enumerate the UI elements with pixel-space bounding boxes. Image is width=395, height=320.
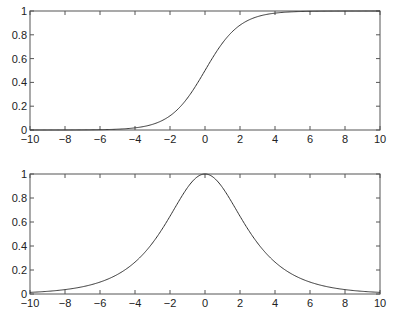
y-tick-label: 0.4 [12,76,27,88]
x-tick-label: 2 [237,297,243,309]
x-tick-label: 0 [202,133,208,145]
x-tick-label: 6 [307,133,313,145]
x-tick-label: −6 [94,133,107,145]
y-tick-label: 0.6 [12,53,27,65]
y-tick-label: 0.4 [12,240,27,252]
x-tick-label: 8 [342,133,348,145]
x-tick-label: 4 [272,133,278,145]
x-tick-label: −4 [129,297,142,309]
bottom-axes-bell-curve: −10−8−6−4−2024681000.20.40.60.81 [12,168,386,309]
y-tick-label: 0.2 [12,100,27,112]
axes-box [30,174,380,294]
y-tick-label: 0.8 [12,192,27,204]
x-tick-label: 0 [202,297,208,309]
top-axes-sigmoid: −10−8−6−4−2024681000.20.40.60.81 [12,5,386,145]
x-tick-label: 10 [374,133,386,145]
y-tick-label: 0 [21,288,27,300]
x-tick-label: −4 [129,133,142,145]
x-tick-label: 8 [342,297,348,309]
y-tick-label: 0.8 [12,29,27,41]
x-tick-label: −8 [59,297,72,309]
y-tick-label: 1 [21,5,27,17]
x-tick-label: −8 [59,133,72,145]
x-tick-label: −2 [164,297,177,309]
x-tick-label: 2 [237,133,243,145]
y-tick-label: 0 [21,124,27,136]
y-tick-label: 0.2 [12,264,27,276]
x-tick-label: 6 [307,297,313,309]
y-tick-label: 1 [21,168,27,180]
y-tick-label: 0.6 [12,216,27,228]
x-tick-label: −6 [94,297,107,309]
figure: −10−8−6−4−2024681000.20.40.60.81 −10−8−6… [0,0,395,320]
x-tick-label: 10 [374,297,386,309]
x-tick-label: −2 [164,133,177,145]
x-tick-label: 4 [272,297,278,309]
